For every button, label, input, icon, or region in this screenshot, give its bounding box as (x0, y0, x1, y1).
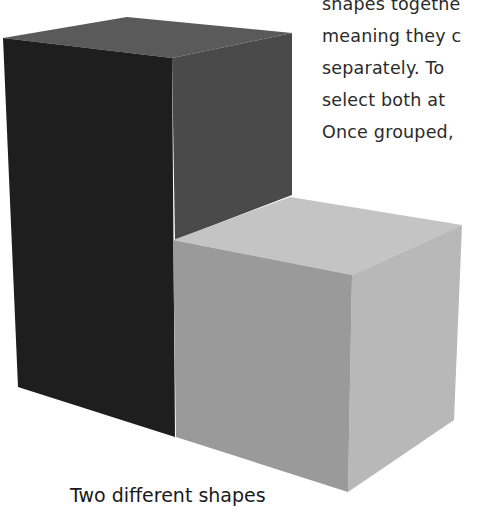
text-line: select both at (322, 84, 477, 116)
short-box-front-face (173, 240, 352, 492)
figure-caption: Two different shapes (70, 484, 266, 506)
text-line: meaning they c (322, 20, 477, 52)
text-line: separately. To (322, 52, 477, 84)
tall-box-front-face (3, 38, 175, 437)
short-light-box (173, 197, 462, 492)
text-line: shapes togethe (322, 0, 477, 20)
body-text: shapes togethe meaning they c separately… (322, 0, 477, 148)
text-line: Once grouped, (322, 116, 477, 148)
